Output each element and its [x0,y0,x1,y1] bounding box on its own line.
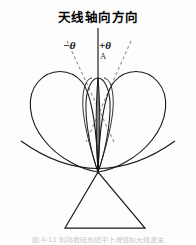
angle-negative-label: −θ [63,40,75,51]
figure-caption-partial: 图 4-11 机场着陆系统中下滑信标天线波束 [0,237,196,245]
inner-beam-envelope-left [83,78,98,172]
point-a-label: A [100,52,106,61]
antenna-pattern-figure: 天线轴向方向 −θ +θ A 图 4-11 机场着陆系统中下滑信标天线波束 [0,0,196,245]
figure-drawing [0,0,196,245]
radiation-lobe-left [30,72,98,173]
angle-positive-label: +θ [99,40,111,51]
antenna-triangle [65,172,145,228]
page-title: 天线轴向方向 [0,12,196,25]
dashed-beam-axis-left-icon [67,41,114,142]
radiation-lobe-right [98,72,166,173]
